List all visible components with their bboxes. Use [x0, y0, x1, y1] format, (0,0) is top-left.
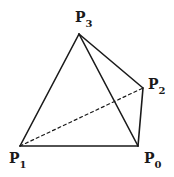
label-p0: P0: [144, 150, 162, 170]
edges: [20, 34, 143, 146]
edge-p1-p3: [20, 34, 79, 146]
label-p2: P2: [148, 76, 166, 96]
edge-p3-p2: [79, 34, 143, 88]
label-p3: P3: [75, 9, 93, 29]
label-p1: P1: [9, 150, 27, 170]
edge-p3-p0: [79, 34, 138, 146]
tetrahedron-diagram: P0 P1 P2 P3: [0, 0, 174, 177]
edge-p2-p0: [138, 88, 143, 146]
edge-p1-p2: [20, 88, 143, 146]
